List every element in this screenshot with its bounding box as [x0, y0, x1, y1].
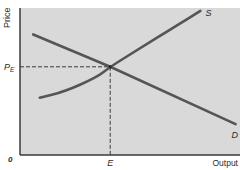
equilibrium-point [109, 65, 112, 68]
chart: Price Output 0 E PE S D [0, 0, 240, 170]
equilibrium-x-label: E [107, 158, 114, 168]
y-axis-label: Price [2, 7, 12, 28]
origin-label: 0 [8, 155, 13, 164]
equilibrium-y-label-sub: E [10, 66, 15, 73]
x-axis-label: Output [212, 158, 238, 168]
equilibrium-y-label: PE [4, 62, 15, 73]
demand-label: D [232, 130, 239, 140]
plot-background [20, 8, 240, 155]
supply-label: S [205, 8, 211, 18]
